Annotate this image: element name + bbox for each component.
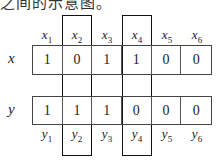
y-cell-4: 0 xyxy=(122,97,152,124)
x-cell-1: 1 xyxy=(33,46,63,74)
y-footer-4: y4 xyxy=(122,126,152,144)
x-header-2: x2 xyxy=(62,27,92,45)
x-header-1: x1 xyxy=(32,27,62,45)
y-footer-3: y3 xyxy=(92,126,122,144)
x-header-5: x5 xyxy=(152,27,182,45)
caption-text: 之间的示意图。 xyxy=(0,0,112,12)
y-cell-2: 1 xyxy=(63,97,93,124)
y-cell-5: 0 xyxy=(152,97,182,124)
x-header-4: x4 xyxy=(122,27,152,45)
y-footer-5: y5 xyxy=(152,126,182,144)
y-footer-1: y1 xyxy=(32,126,62,144)
x-header-6: x6 xyxy=(182,27,212,45)
y-cell-3: 1 xyxy=(92,97,122,124)
row-label-x: x xyxy=(8,50,15,67)
y-footer-6: y6 xyxy=(182,126,212,144)
x-cell-3: 1 xyxy=(92,46,122,74)
x-header-3: x3 xyxy=(92,27,122,45)
x-cell-5: 0 xyxy=(152,46,182,74)
x-row: 1 0 1 1 0 0 xyxy=(32,45,212,75)
x-cell-6: 0 xyxy=(181,46,211,74)
y-cell-1: 1 xyxy=(33,97,63,124)
x-cell-2: 0 xyxy=(63,46,93,74)
row-label-y: y xyxy=(8,101,15,118)
y-footer-2: y2 xyxy=(62,126,92,144)
x-cell-4: 1 xyxy=(122,46,152,74)
y-cell-6: 0 xyxy=(181,97,211,124)
y-row: 1 1 1 0 0 0 xyxy=(32,96,212,125)
